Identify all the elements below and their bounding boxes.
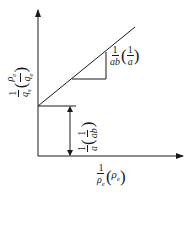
slope-label: 1ab ( 1a ) [109, 44, 139, 67]
y-axis-label: 1qs ( ρeqe ) [4, 67, 37, 98]
x-axis-label: 1ρe (ρe) [96, 162, 126, 190]
slope-triangle [72, 52, 106, 79]
intercept-label: 1a ( 1ab ) [76, 122, 99, 152]
